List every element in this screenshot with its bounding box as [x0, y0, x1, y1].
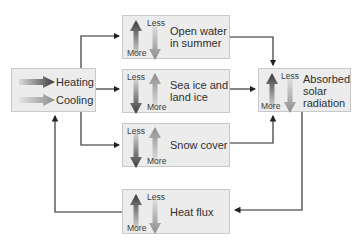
box-title-line: Open water — [170, 25, 227, 38]
down-arrow-icon — [284, 79, 296, 113]
box-title-line: Snow cover — [170, 139, 227, 152]
less-label: Less — [147, 18, 165, 28]
more-label: More — [127, 223, 146, 233]
open-water-box: Less More Open water in summer — [122, 15, 230, 59]
box-title-line: Sea ice and — [170, 79, 228, 92]
box-title-line: Heat flux — [170, 206, 213, 219]
box-title-line: in summer — [170, 37, 221, 50]
less-label: Less — [127, 126, 145, 136]
more-label: More — [261, 101, 280, 111]
heat-flux-box: Less More Heat flux — [122, 189, 230, 234]
box-title-line: radiation — [303, 97, 345, 110]
down-arrow-icon — [130, 80, 142, 114]
snow-cover-box: Less More Snow cover — [122, 123, 230, 167]
box-title-line: land ice — [170, 91, 208, 104]
box-title-line: solar — [303, 85, 327, 98]
legend-box: Heating Cooling — [11, 68, 96, 112]
absorbed-solar-box: Less More Absorbed solar radiation — [258, 68, 351, 112]
less-label: Less — [281, 71, 299, 81]
down-arrow-icon — [130, 134, 142, 168]
cooling-label: Cooling — [56, 94, 93, 107]
cooling-arrow-icon — [19, 94, 55, 106]
more-label: More — [147, 102, 166, 112]
down-arrow-icon — [149, 200, 161, 234]
box-title-line: Absorbed — [303, 73, 350, 86]
less-label: Less — [127, 72, 145, 82]
more-label: More — [127, 48, 146, 58]
down-arrow-icon — [149, 26, 161, 60]
less-label: Less — [147, 192, 165, 202]
sea-ice-box: Less More Sea ice and land ice — [122, 69, 230, 113]
heating-arrow-icon — [19, 76, 55, 88]
heating-label: Heating — [56, 76, 94, 89]
more-label: More — [147, 156, 166, 166]
